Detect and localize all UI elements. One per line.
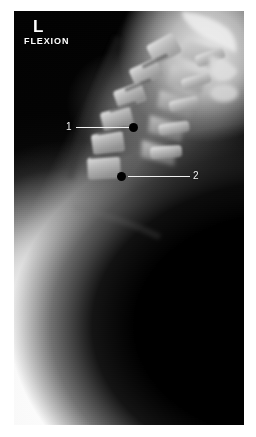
leader-dot-2[interactable] — [117, 172, 126, 181]
annotation-label-2[interactable]: 2 — [193, 171, 199, 181]
leader-line-2[interactable] — [128, 176, 190, 177]
annotation-label-1[interactable]: 1 — [66, 122, 72, 132]
leader-line-1[interactable] — [76, 127, 130, 128]
film-grain-layer — [14, 11, 244, 425]
leader-dot-1[interactable] — [129, 123, 138, 132]
radiograph-plate — [14, 11, 244, 425]
projection-label: FLEXION — [24, 37, 69, 46]
laterality-marker: L — [33, 18, 43, 35]
radiograph-viewer: L FLEXION 1 2 — [0, 0, 256, 437]
